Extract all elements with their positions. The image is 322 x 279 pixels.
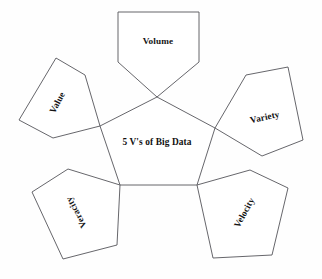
petal-volume-shape[interactable] bbox=[118, 12, 199, 97]
petal-velocity[interactable]: Velocity bbox=[197, 170, 288, 258]
petal-variety[interactable]: Variety bbox=[215, 67, 303, 156]
petal-value[interactable]: Value bbox=[19, 58, 100, 138]
petal-volume[interactable]: Volume bbox=[118, 12, 199, 97]
petal-volume-label: Volume bbox=[143, 36, 174, 46]
center-pentagon-label: 5 V's of Big Data bbox=[122, 137, 191, 147]
diagram-canvas: Volume Variety Velocity Veracity Value 5… bbox=[0, 0, 322, 279]
big-data-five-vs-diagram: Volume Variety Velocity Veracity Value 5… bbox=[0, 0, 322, 279]
center-pentagon[interactable]: 5 V's of Big Data bbox=[100, 97, 215, 185]
petal-variety-shape[interactable] bbox=[215, 67, 303, 156]
petal-veracity[interactable]: Veracity bbox=[32, 169, 120, 259]
